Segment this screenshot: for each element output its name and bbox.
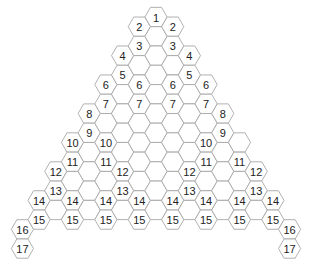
hex-number-label: 16 — [283, 224, 295, 236]
hex-number-label: 1 — [153, 12, 159, 24]
hex-number-label: 4 — [186, 50, 192, 62]
hex-number-label: 11 — [200, 156, 211, 168]
hex-number-label: 17 — [283, 243, 295, 255]
hex-number-label: 14 — [200, 195, 212, 207]
hex-number-label: 15 — [33, 214, 45, 226]
hex-number-label: 7 — [103, 98, 109, 110]
hex-number-label: 8 — [86, 108, 92, 120]
hex-number-label: 10 — [66, 137, 78, 149]
hex-number-label: 9 — [86, 127, 92, 139]
hex-cells — [11, 7, 300, 258]
hex-number-label: 5 — [120, 69, 126, 81]
hex-number-label: 11 — [234, 156, 245, 168]
hex-number-label: 12 — [250, 166, 262, 178]
hex-number-label: 11 — [100, 156, 111, 168]
hex-number-label: 5 — [186, 69, 192, 81]
hex-number-label: 13 — [116, 185, 128, 197]
hex-number-label: 7 — [203, 98, 209, 110]
hex-number-label: 6 — [136, 79, 142, 91]
hex-number-label: 14 — [66, 195, 78, 207]
hex-number-label: 15 — [267, 214, 279, 226]
hex-number-label: 6 — [103, 79, 109, 91]
hex-number-label: 8 — [220, 108, 226, 120]
hex-number-label: 7 — [170, 98, 176, 110]
hex-number-label: 11 — [67, 156, 78, 168]
hex-number-label: 3 — [170, 40, 176, 52]
hex-number-label: 6 — [170, 79, 176, 91]
hex-number-label: 14 — [33, 195, 45, 207]
hex-number-label: 15 — [66, 214, 78, 226]
hex-number-label: 13 — [250, 185, 262, 197]
hex-number-label: 14 — [267, 195, 279, 207]
hex-number-label: 6 — [203, 79, 209, 91]
hex-number-label: 15 — [133, 214, 145, 226]
hex-number-label: 2 — [170, 21, 176, 33]
hex-number-label: 15 — [167, 214, 179, 226]
hex-number-label: 13 — [50, 185, 62, 197]
hex-number-label: 3 — [136, 40, 142, 52]
hex-grid-diagram: 1223344556666777788991010101111111112121… — [0, 0, 312, 269]
hex-number-label: 14 — [167, 195, 179, 207]
hex-number-label: 9 — [220, 127, 226, 139]
hex-number-label: 12 — [183, 166, 195, 178]
hex-number-label: 4 — [120, 50, 126, 62]
hex-number-label: 15 — [233, 214, 245, 226]
hex-number-label: 17 — [16, 243, 28, 255]
hex-number-label: 13 — [183, 185, 195, 197]
hex-number-label: 2 — [136, 21, 142, 33]
hex-number-label: 7 — [136, 98, 142, 110]
hex-number-label: 15 — [200, 214, 212, 226]
hex-number-label: 16 — [16, 224, 28, 236]
hex-number-label: 14 — [233, 195, 245, 207]
hex-number-label: 12 — [50, 166, 62, 178]
hex-number-label: 14 — [100, 195, 112, 207]
hex-number-label: 10 — [200, 137, 212, 149]
hex-number-label: 15 — [100, 214, 112, 226]
hex-number-label: 12 — [116, 166, 128, 178]
hex-number-label: 10 — [100, 137, 112, 149]
hex-number-label: 14 — [133, 195, 145, 207]
